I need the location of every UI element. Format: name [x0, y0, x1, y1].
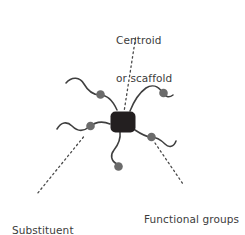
substituent-arm-left — [57, 122, 110, 130]
label-substituent-line1: Substituent — [12, 224, 74, 235]
dendrimer-diagram: Centroid or scaffold Substituent 'arms' … — [0, 0, 245, 235]
label-functional-line1: Functional groups — [144, 213, 239, 226]
leader-line-substituent — [37, 137, 84, 194]
substituent-arm-bottom — [112, 132, 121, 164]
functional-group-dot-left — [86, 122, 95, 131]
label-functional-groups: Functional groups — [144, 188, 239, 235]
leader-line-functional — [155, 143, 183, 184]
label-centroid-line2: or scaffold — [116, 72, 172, 85]
functional-group-dot-lower-right — [147, 133, 156, 142]
substituent-arm-upper-left — [66, 78, 117, 110]
label-centroid-line1: Centroid — [116, 34, 172, 47]
label-centroid-or-scaffold: Centroid or scaffold — [116, 9, 172, 109]
functional-group-dot-upper-left — [96, 90, 105, 99]
label-substituent-arms: Substituent 'arms' — [12, 199, 74, 235]
functional-group-dot-bottom — [114, 162, 123, 171]
centroid-scaffold-core — [111, 112, 136, 133]
